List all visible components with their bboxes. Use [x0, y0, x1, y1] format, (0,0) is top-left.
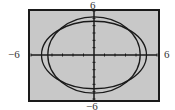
calculator-graph-screen	[0, 0, 175, 110]
